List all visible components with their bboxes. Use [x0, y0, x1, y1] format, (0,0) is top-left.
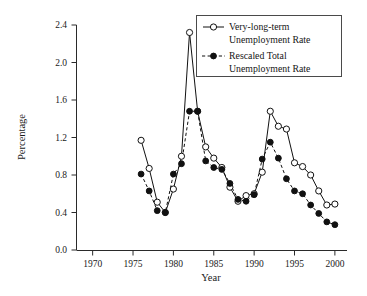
- data-point: [259, 169, 265, 175]
- y-tick-label: 2.0: [55, 58, 67, 68]
- data-point: [243, 198, 249, 204]
- data-point: [308, 202, 314, 208]
- data-point: [324, 202, 330, 208]
- x-tick-label: 1980: [164, 259, 183, 269]
- data-point: [259, 156, 265, 162]
- data-point: [138, 171, 144, 177]
- y-axis-tick-labels: 0.00.40.81.21.62.02.4: [55, 20, 67, 255]
- data-point: [308, 172, 314, 178]
- data-point: [316, 188, 322, 194]
- data-point: [227, 181, 233, 187]
- legend-marker-filled-circle: [211, 53, 217, 59]
- data-point: [219, 166, 225, 172]
- data-point: [291, 160, 297, 166]
- data-point: [243, 193, 249, 199]
- y-tick-label: 0.8: [55, 170, 67, 180]
- y-axis-tick-marks: [72, 25, 77, 250]
- data-point: [235, 196, 241, 202]
- y-tick-label: 0.0: [55, 245, 67, 255]
- data-point: [299, 163, 305, 169]
- data-point: [195, 108, 201, 114]
- data-point: [316, 211, 322, 217]
- chart-container: 0.00.40.81.21.62.02.4 197019751980198519…: [0, 0, 367, 296]
- data-point: [275, 155, 281, 161]
- legend-label-2-line2: Unemployment Rate: [229, 63, 311, 74]
- data-point: [251, 192, 257, 198]
- data-point: [324, 219, 330, 225]
- data-point: [154, 199, 160, 205]
- legend-marker-open-circle: [210, 24, 216, 30]
- data-point: [186, 29, 192, 35]
- x-tick-label: 1975: [124, 259, 143, 269]
- x-tick-label: 1970: [83, 259, 102, 269]
- data-point: [146, 188, 152, 194]
- data-point: [283, 126, 289, 132]
- legend-label-2-line1: Rescaled Total: [229, 50, 287, 61]
- legend-label-1-line1: Very-long-term: [229, 21, 290, 32]
- data-point: [292, 188, 298, 194]
- data-point: [146, 165, 152, 171]
- data-point: [203, 144, 209, 150]
- data-point: [171, 171, 177, 177]
- data-point: [300, 191, 306, 197]
- y-tick-label: 1.6: [55, 95, 67, 105]
- data-point: [170, 186, 176, 192]
- line-chart: 0.00.40.81.21.62.02.4 197019751980198519…: [0, 0, 367, 296]
- data-point: [179, 161, 185, 167]
- x-axis-tick-marks: [93, 251, 335, 256]
- data-point: [211, 165, 217, 171]
- data-point: [154, 208, 160, 214]
- data-point: [275, 123, 281, 129]
- x-tick-label: 1995: [285, 259, 304, 269]
- y-tick-label: 0.4: [55, 208, 67, 218]
- chart-legend: Very-long-term Unemployment Rate Rescale…: [197, 16, 342, 77]
- x-axis-tick-labels: 1970197519801985199019952000: [83, 259, 344, 269]
- data-point: [211, 155, 217, 161]
- data-point: [332, 201, 338, 207]
- x-tick-label: 1985: [204, 259, 223, 269]
- x-tick-label: 1990: [245, 259, 264, 269]
- data-point: [332, 222, 338, 228]
- x-axis-title: Year: [201, 272, 221, 283]
- y-tick-label: 2.4: [55, 20, 67, 30]
- data-point: [203, 158, 209, 164]
- data-point: [267, 139, 273, 145]
- y-axis-title: Percentage: [16, 114, 27, 160]
- legend-label-1-line2: Unemployment Rate: [229, 34, 311, 45]
- data-point: [187, 108, 193, 114]
- data-point: [267, 108, 273, 114]
- data-point: [138, 137, 144, 143]
- data-point: [162, 210, 168, 216]
- data-point: [284, 176, 290, 182]
- data-point: [178, 153, 184, 159]
- x-tick-label: 2000: [325, 259, 344, 269]
- y-tick-label: 1.2: [55, 133, 67, 143]
